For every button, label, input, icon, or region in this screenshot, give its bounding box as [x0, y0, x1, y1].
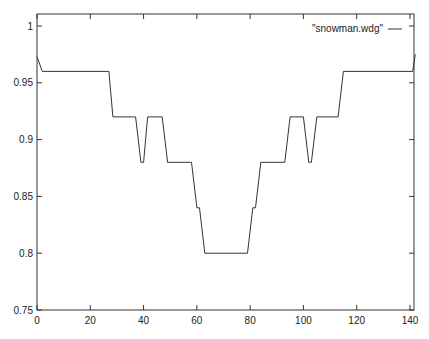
- y-tick-label: 1: [27, 21, 33, 32]
- x-tick-label: 120: [348, 315, 365, 326]
- legend-label: "snowman.wdg": [312, 23, 383, 34]
- x-tick-label: 140: [402, 315, 419, 326]
- y-tick-label: 0.75: [14, 305, 34, 316]
- y-tick-label: 0.85: [14, 191, 34, 202]
- x-tick-label: 80: [245, 315, 257, 326]
- x-tick-label: 20: [85, 315, 97, 326]
- x-axis-ticks: 020406080100120140: [34, 14, 419, 326]
- data-line-snowman: [37, 54, 415, 253]
- x-tick-label: 40: [138, 315, 150, 326]
- legend: "snowman.wdg": [312, 23, 402, 34]
- y-tick-label: 0.9: [19, 134, 33, 145]
- x-tick-label: 100: [295, 315, 312, 326]
- line-chart: 020406080100120140 0.750.80.850.90.951 "…: [0, 0, 429, 339]
- y-tick-label: 0.95: [14, 77, 34, 88]
- y-axis-ticks: 0.750.80.850.90.951: [14, 21, 414, 316]
- plot-frame: [37, 14, 414, 310]
- x-tick-label: 0: [34, 315, 40, 326]
- x-tick-label: 60: [191, 315, 203, 326]
- y-tick-label: 0.8: [19, 248, 33, 259]
